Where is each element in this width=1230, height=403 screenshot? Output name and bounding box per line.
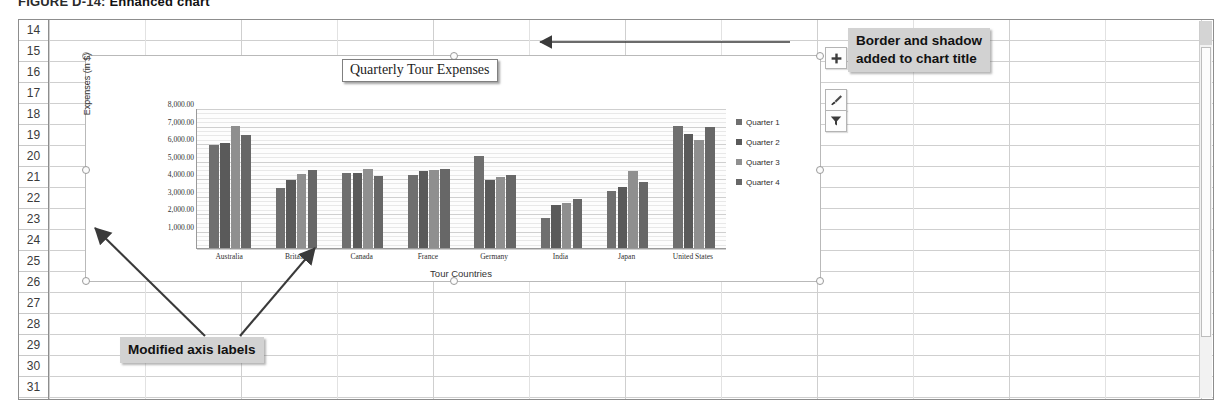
callout-border-line1: Border and shadow [856,32,982,50]
leader-line-y-axis [95,228,205,336]
callout-border-shadow: Border and shadow added to chart title [848,28,990,72]
callout-axis-line1: Modified axis labels [128,341,256,359]
leader-line-x-axis [240,248,315,336]
callout-border-line2: added to chart title [856,50,982,68]
callout-modified-axis-labels: Modified axis labels [120,337,264,363]
